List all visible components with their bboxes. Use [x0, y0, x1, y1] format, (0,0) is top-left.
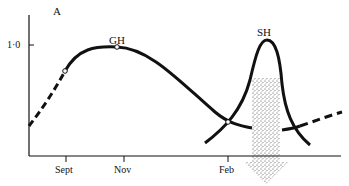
x-tick-label-sept: Sept [55, 164, 73, 175]
diagram-canvas [0, 0, 349, 186]
sept-marker [63, 69, 68, 74]
gh-label: GH [109, 34, 125, 46]
intersection-marker [226, 120, 231, 125]
sh-label: SH [257, 26, 271, 38]
y-tick-label: 1·0 [7, 39, 20, 50]
panel-label: A [53, 5, 61, 17]
stippled-arrow [244, 78, 288, 184]
x-tick-label-feb: Feb [219, 164, 234, 175]
gh-curve [65, 47, 252, 128]
gh-curve-dashed-start [29, 71, 65, 126]
gh-curve-dashed-end [300, 112, 342, 126]
x-tick-label-nov: Nov [114, 164, 131, 175]
